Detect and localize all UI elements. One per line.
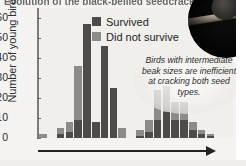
x-axis-arrow bbox=[38, 146, 218, 158]
bar-segment-did-not-survive bbox=[118, 128, 126, 138]
figure-container: Evolution of the black-bellied seedcrack… bbox=[0, 0, 246, 166]
bar-3 bbox=[57, 128, 65, 138]
bar-segment-survived bbox=[101, 46, 109, 138]
y-tick-mark-0 bbox=[37, 138, 41, 139]
bar-segment-survived bbox=[145, 132, 153, 138]
bar-18 bbox=[189, 122, 197, 138]
survived-swatch bbox=[92, 17, 101, 26]
bar-segment-survived bbox=[57, 134, 65, 138]
bar-10 bbox=[118, 128, 126, 138]
legend-label-did-not-survive: Did not survive bbox=[106, 31, 179, 43]
bar-20 bbox=[207, 134, 215, 138]
bar-segment-did-not-survive bbox=[145, 120, 153, 132]
bar-7 bbox=[92, 122, 100, 138]
legend-item-did-not-survive: Did not survive bbox=[92, 30, 179, 43]
bar-segment-survived bbox=[66, 132, 74, 138]
callout-text: Birds with intermediate beak sizes are i… bbox=[138, 55, 240, 97]
y-tick-label-50: 50 bbox=[0, 32, 8, 43]
bar-8 bbox=[101, 46, 109, 138]
x-axis-arrow-head bbox=[206, 146, 216, 156]
y-tick-label-0: 0 bbox=[0, 132, 8, 143]
bar-segment-did-not-survive bbox=[189, 122, 197, 130]
y-tick-label-30: 30 bbox=[0, 72, 8, 83]
bar-segment-survived bbox=[92, 122, 100, 138]
y-tick-label-60: 60 bbox=[0, 12, 8, 23]
bar-segment-did-not-survive bbox=[74, 66, 82, 120]
did-not-survive-swatch bbox=[92, 32, 101, 41]
bar-5 bbox=[74, 66, 82, 138]
bar-segment-survived bbox=[207, 136, 215, 138]
bar-1 bbox=[39, 134, 47, 138]
page-right-margin bbox=[236, 0, 246, 166]
bar-segment-survived bbox=[189, 130, 197, 138]
y-tick-label-20: 20 bbox=[0, 92, 8, 103]
bar-13 bbox=[145, 120, 153, 138]
bar-segment-survived bbox=[83, 24, 91, 138]
y-tick-label-40: 40 bbox=[0, 52, 8, 63]
x-axis-arrow-line bbox=[38, 150, 208, 152]
bar-segment-did-not-survive bbox=[39, 134, 47, 138]
bar-segment-did-not-survive bbox=[66, 122, 74, 132]
bar-segment-survived bbox=[154, 120, 162, 138]
page-bottom-margin bbox=[0, 160, 246, 166]
bar-segment-survived bbox=[163, 112, 171, 138]
legend-item-survived: Survived bbox=[92, 15, 179, 28]
legend: Survived Did not survive bbox=[92, 15, 179, 45]
y-tick-label-10: 10 bbox=[0, 112, 8, 123]
bar-6 bbox=[83, 24, 91, 138]
bar-segment-survived bbox=[136, 136, 144, 138]
bar-segment-survived bbox=[74, 120, 82, 138]
bar-12 bbox=[136, 130, 144, 138]
bar-segment-survived bbox=[110, 88, 118, 138]
bar-segment-survived bbox=[198, 134, 206, 138]
bar-segment-survived bbox=[180, 120, 188, 138]
bar-9 bbox=[110, 88, 118, 138]
legend-label-survived: Survived bbox=[106, 16, 149, 28]
bar-segment-survived bbox=[171, 120, 179, 138]
bar-4 bbox=[66, 122, 74, 138]
bar-19 bbox=[198, 130, 206, 138]
